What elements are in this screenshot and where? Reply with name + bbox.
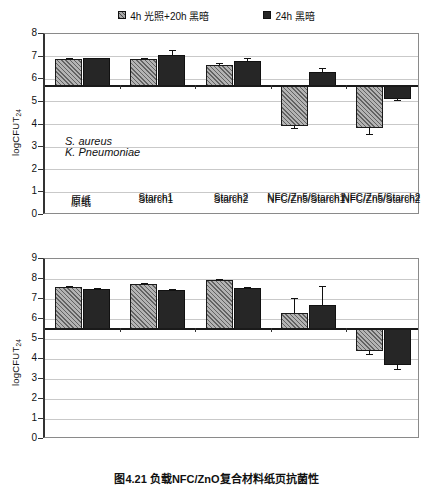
error-bar-cap [366, 134, 373, 135]
bar [206, 65, 233, 86]
plot-area-k-pneumoniae [43, 258, 419, 438]
y-axis-title-bottom: logCFUT24 [10, 332, 23, 392]
bar [130, 59, 157, 86]
bar [384, 86, 411, 99]
y-axis-tick-label: 5 [31, 96, 37, 106]
bar [281, 86, 308, 126]
bar [158, 55, 185, 86]
bar [309, 305, 336, 329]
y-axis-tick [38, 418, 43, 419]
y-axis-tick [38, 278, 43, 279]
figure-root: 4h 光照+20h 黑暗 24h 黑暗 logCFUT24 012345678 … [0, 0, 433, 496]
bar [234, 288, 261, 329]
gridline [45, 399, 418, 400]
y-axis-tick-label: 4 [31, 353, 37, 363]
y-axis-tick [38, 124, 43, 125]
x-axis-category-label: Starch2 [214, 194, 248, 205]
x-axis-tick [346, 85, 347, 89]
error-bar-cap [319, 286, 326, 287]
error-bar-cap [366, 354, 373, 355]
error-bar [322, 286, 323, 305]
y-axis-tick [38, 298, 43, 299]
bar [309, 72, 336, 86]
error-bar-cap [141, 283, 148, 284]
error-bar [294, 298, 295, 314]
figure-caption: 图4.21 负载NFC/ZnO复合材料纸页抗菌性 [0, 470, 433, 486]
error-bar-cap [66, 58, 73, 59]
y-axis-tick-label: 6 [31, 313, 37, 323]
value-baseline [45, 328, 418, 330]
gridline [45, 56, 418, 57]
y-axis-tick-label: 1 [31, 413, 37, 423]
plot-area-s-aureus [43, 33, 419, 214]
error-bar-cap [216, 279, 223, 280]
y-axis-tick-label: 3 [31, 141, 37, 151]
bar [356, 329, 383, 351]
y-axis-tick-label: 8 [31, 28, 37, 38]
legend-swatch-solid-icon [263, 11, 271, 19]
y-axis-tick-label: 2 [31, 164, 37, 174]
chart-panel-k-pneumoniae: logCFUT24 0123456789 [0, 248, 433, 464]
legend-swatch-hatched-icon [118, 11, 126, 19]
error-bar-cap [319, 68, 326, 69]
y-axis-tick [38, 438, 43, 439]
error-bar-cap [66, 286, 73, 287]
chart-legend: 4h 光照+20h 黑暗 24h 黑暗 [0, 6, 433, 24]
y-axis-tick [38, 146, 43, 147]
bar [55, 59, 82, 86]
y-axis-tick-label: 0 [31, 433, 37, 443]
value-baseline [45, 85, 418, 87]
y-axis-tick [38, 169, 43, 170]
error-bar-cap [216, 63, 223, 64]
gridline [45, 379, 418, 380]
x-axis-tick [195, 85, 196, 89]
y-axis-tick [38, 101, 43, 102]
x-axis-category-label: NFC/Zn5/Starch1 [267, 194, 345, 205]
y-axis-tick [38, 191, 43, 192]
bar [281, 313, 308, 329]
error-bar-cap [244, 287, 251, 288]
y-axis-tick [38, 318, 43, 319]
error-bar-cap [169, 50, 176, 51]
x-axis-tick [346, 328, 347, 332]
y-axis-tick-label: 6 [31, 73, 37, 83]
y-axis-tick-label: 7 [31, 293, 37, 303]
error-bar-cap [394, 100, 401, 101]
y-axis-tick-label: 5 [31, 333, 37, 343]
x-axis-category-label: 原纸 [71, 194, 91, 209]
y-axis-tick-label: 2 [31, 393, 37, 403]
y-axis-tick [38, 214, 43, 215]
y-axis-tick-label: 8 [31, 273, 37, 283]
y-axis-tick-label: 4 [31, 119, 37, 129]
y-axis-tick-label: 7 [31, 51, 37, 61]
bar [130, 284, 157, 329]
error-bar-cap [169, 289, 176, 290]
y-axis-tick-label: 9 [31, 253, 37, 263]
bar [83, 58, 110, 86]
y-axis-tick [38, 398, 43, 399]
y-axis-tick [38, 338, 43, 339]
bar [356, 86, 383, 128]
gridline [45, 169, 418, 170]
x-axis-tick [271, 328, 272, 332]
bar [384, 329, 411, 365]
bar [206, 280, 233, 329]
legend-label-0: 4h 光照+20h 黑暗 [130, 8, 209, 23]
x-axis-tick [120, 85, 121, 89]
error-bar-cap [244, 58, 251, 59]
y-axis-tick [38, 358, 43, 359]
legend-label-1: 24h 黑暗 [275, 8, 314, 23]
x-axis-tick [195, 328, 196, 332]
y-axis-tick [38, 56, 43, 57]
gridline [45, 359, 418, 360]
error-bar-cap [141, 58, 148, 59]
y-axis-tick-label: 3 [31, 373, 37, 383]
y-axis-title-top: logCFUT24 [10, 102, 23, 162]
legend-item-1: 24h 黑暗 [263, 8, 314, 23]
x-axis-category-label: NFC/Zn5/Starch2 [342, 194, 420, 205]
error-bar-cap [394, 369, 401, 370]
error-bar-cap [94, 288, 101, 289]
x-axis-category-label: Starch1 [139, 194, 173, 205]
x-axis-tick [120, 328, 121, 332]
y-axis-tick-label: 1 [31, 186, 37, 196]
